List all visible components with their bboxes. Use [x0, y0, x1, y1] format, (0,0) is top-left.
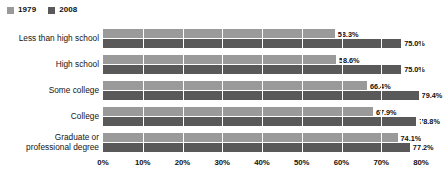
x-tick-label: 20% — [175, 157, 191, 169]
chart-legend: 1979 2008 — [7, 4, 77, 16]
bar-2008[interactable] — [103, 143, 410, 152]
plot-area: Less than high school58.3%75.0%High scho… — [0, 24, 443, 159]
x-tick-label: 80% — [413, 157, 429, 169]
legend-label-2008: 2008 — [59, 6, 77, 14]
legend-swatch-icon-1979 — [7, 7, 14, 14]
category-label: Less than high school — [1, 33, 99, 43]
category-label: High school — [1, 59, 99, 69]
bar-2008[interactable] — [103, 65, 401, 74]
bar-2008[interactable] — [103, 91, 419, 100]
bar-2008[interactable] — [103, 39, 401, 48]
bar-chart: 1979 2008 Less than high school58.3%75.0… — [0, 0, 443, 182]
bar-value-label: 66.4% — [370, 82, 391, 91]
bar-value-label: 58.6% — [339, 56, 360, 65]
x-tick-label: 40% — [254, 157, 270, 169]
category-label: Graduate or professional degree — [1, 132, 99, 152]
bar-value-label: 78.8% — [419, 117, 440, 126]
bar-value-label: 58.3% — [338, 30, 359, 39]
bar-value-label: 77.2% — [413, 143, 434, 152]
bar-1979[interactable] — [103, 133, 398, 142]
x-tick-label: 10% — [135, 157, 151, 169]
bar-2008[interactable] — [103, 117, 416, 126]
bar-1979[interactable] — [103, 81, 367, 90]
category-label: Some college — [1, 85, 99, 95]
bar-value-label: 67.9% — [376, 108, 397, 117]
bar-1979[interactable] — [103, 55, 336, 64]
legend-item-1979[interactable]: 1979 — [7, 6, 36, 14]
bar-1979[interactable] — [103, 29, 335, 38]
legend-label-1979: 1979 — [18, 6, 36, 14]
bar-value-label: 79.4% — [422, 91, 443, 100]
bar-value-label: 74.1% — [401, 134, 422, 143]
legend-item-2008[interactable]: 2008 — [48, 6, 77, 14]
category-label: College — [1, 111, 99, 121]
x-tick-label: 0% — [97, 157, 108, 169]
x-tick-label: 60% — [334, 157, 350, 169]
x-axis: 0%10%20%30%40%50%60%70%80% — [0, 157, 443, 171]
x-tick-label: 70% — [373, 157, 389, 169]
bar-1979[interactable] — [103, 107, 373, 116]
x-tick-label: 30% — [214, 157, 230, 169]
bar-value-label: 75.0% — [404, 65, 425, 74]
bar-value-label: 75.0% — [404, 39, 425, 48]
x-tick-label: 50% — [294, 157, 310, 169]
legend-swatch-icon-2008 — [48, 7, 55, 14]
